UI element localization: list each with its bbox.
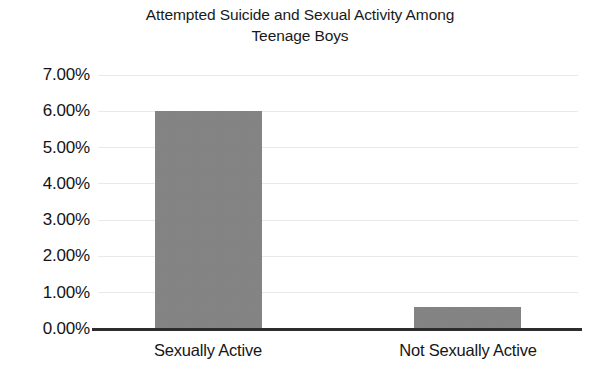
y-axis-tick-label: 7.00% [4, 66, 90, 83]
y-axis-tick-labels: 7.00% 6.00% 5.00% 4.00% 3.00% 2.00% 1.00… [0, 0, 90, 368]
x-axis-label-sexually-active: Sexually Active [128, 341, 288, 359]
y-axis-tick-label: 4.00% [4, 175, 90, 192]
bar-not-sexually-active [414, 307, 521, 329]
y-axis-tick-label: 2.00% [4, 247, 90, 264]
x-axis-label-not-sexually-active: Not Sexually Active [377, 341, 559, 359]
x-axis-line [92, 328, 582, 331]
bar-sexually-active [155, 111, 262, 329]
gridline [98, 75, 578, 76]
y-axis-tick-label: 1.00% [4, 284, 90, 301]
y-axis-tick-label: 0.00% [4, 320, 90, 337]
plot-area [98, 75, 578, 329]
y-axis-tick-label: 5.00% [4, 139, 90, 156]
chart-title: Attempted Suicide and Sexual Activity Am… [60, 4, 540, 46]
y-axis-tick-label: 3.00% [4, 211, 90, 228]
bar-chart: Attempted Suicide and Sexual Activity Am… [0, 0, 596, 368]
y-axis-tick-label: 6.00% [4, 102, 90, 119]
